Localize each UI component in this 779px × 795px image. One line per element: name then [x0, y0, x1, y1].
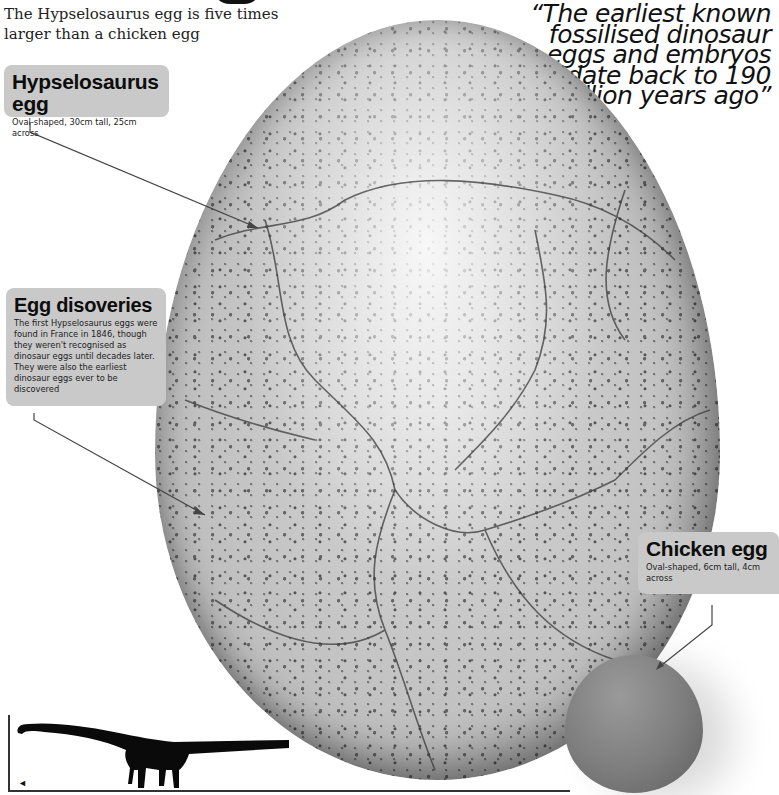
egg-discoveries-desc: The first Hypselosaurus eggs were found … — [14, 318, 158, 395]
hypselosaurus-egg-desc: Oval-shaped, 30cm tall, 25cm across — [12, 117, 161, 139]
chicken-egg-title: Chicken egg — [646, 538, 771, 560]
sauropod-silhouette-icon — [14, 718, 289, 790]
hypselosaurus-egg-title: Hypselosaurus egg — [12, 71, 161, 115]
chicken-egg-label: Chicken egg Oval-shaped, 6cm tall, 4cm a… — [638, 532, 779, 594]
scale-axis — [8, 715, 10, 792]
ground-line — [10, 790, 570, 792]
egg-discoveries-title: Egg disoveries — [14, 294, 158, 316]
hypselosaurus-egg-label: Hypselosaurus egg Oval-shaped, 30cm tall… — [4, 65, 169, 117]
egg-discoveries-label: Egg disoveries The first Hypselosaurus e… — [6, 288, 166, 406]
chicken-egg-image — [565, 655, 703, 793]
chicken-silhouette-icon: ◄ — [18, 778, 27, 788]
intro-text: The Hypselosaurus egg is five times larg… — [4, 4, 304, 44]
chicken-egg-desc: Oval-shaped, 6cm tall, 4cm across — [646, 562, 771, 584]
